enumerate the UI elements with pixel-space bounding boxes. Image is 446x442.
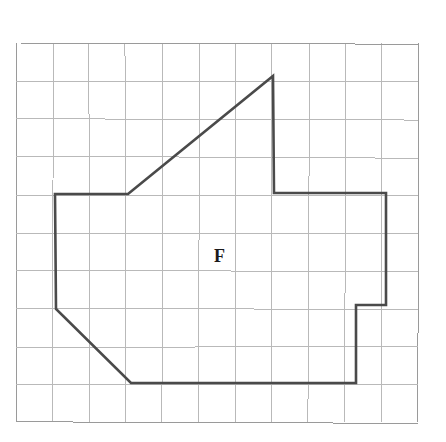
grid-line-horizontal [16,422,418,424]
grid-line-vertical [308,43,310,422]
grid-line-vertical [52,43,53,422]
figure-canvas: F [0,0,446,442]
grid-lines [16,43,419,423]
grid-line-horizontal [16,119,418,120]
grid-line-horizontal [16,43,418,44]
grid-line-horizontal [16,270,418,272]
grid-line-vertical [125,43,126,422]
grid-line-vertical [162,43,163,422]
grid-line-vertical [345,43,346,422]
grid-line-vertical [198,43,199,422]
grid-polygon-svg [0,0,446,442]
grid-line-horizontal [16,156,418,158]
shape-label-f: F [214,247,225,265]
grid-line-vertical [418,43,419,422]
polygon-outline [55,76,386,383]
polygon-shape-f [55,76,386,383]
grid-line-horizontal [16,308,418,309]
